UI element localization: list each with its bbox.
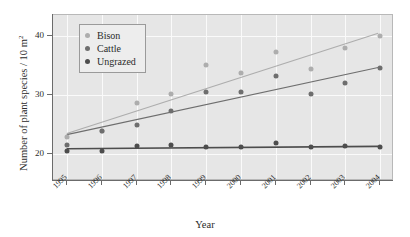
legend-marker-icon [85,46,90,51]
data-point-bison [273,49,278,54]
legend-item-cattle: Cattle [85,42,136,55]
data-point-bison [308,67,313,72]
y-axis-title: Number of plant species / 10 m2 [17,18,30,188]
data-point-cattle [238,89,243,94]
trendline-cattle [67,67,378,134]
legend-marker-icon [85,59,90,64]
legend: BisonCattleUngrazed [79,24,146,73]
data-point-bison [134,101,139,106]
chart-figure: 203040 199519961997199819992000200120022… [0,0,410,237]
data-point-ungrazed [378,145,383,150]
y-axis-tick [47,153,53,154]
data-point-ungrazed [134,144,139,149]
legend-item-label: Cattle [97,44,121,54]
data-point-ungrazed [99,148,104,153]
data-point-ungrazed [343,144,348,149]
legend-item-bison: Bison [85,29,136,42]
x-axis-title: Year [0,219,410,230]
data-point-ungrazed [64,149,69,154]
data-point-ungrazed [273,140,278,145]
data-point-bison [378,33,383,38]
data-point-cattle [343,81,348,86]
data-point-ungrazed [204,145,209,150]
data-point-bison [64,134,69,139]
data-point-cattle [378,66,383,71]
y-axis-title-exponent: 2 [17,36,25,40]
data-point-cattle [169,108,174,113]
data-point-bison [238,71,243,76]
data-point-cattle [134,122,139,127]
y-axis-tick [47,94,53,95]
legend-item-label: Bison [97,31,120,41]
y-axis-title-text: Number of plant species / 10 m [18,39,29,171]
data-point-cattle [308,91,313,96]
y-axis-line [52,14,53,180]
data-point-cattle [64,142,69,147]
data-point-cattle [273,73,278,78]
data-point-ungrazed [238,144,243,149]
data-point-cattle [99,129,104,134]
data-point-bison [204,62,209,67]
y-axis-tick [47,35,53,36]
data-point-ungrazed [169,143,174,148]
data-point-bison [343,46,348,51]
data-point-bison [169,92,174,97]
legend-item-label: Ungrazed [97,57,136,67]
legend-marker-icon [85,33,90,38]
data-point-cattle [204,89,209,94]
legend-item-ungrazed: Ungrazed [85,55,136,68]
trendline-ungrazed [67,146,378,148]
data-point-ungrazed [308,144,313,149]
